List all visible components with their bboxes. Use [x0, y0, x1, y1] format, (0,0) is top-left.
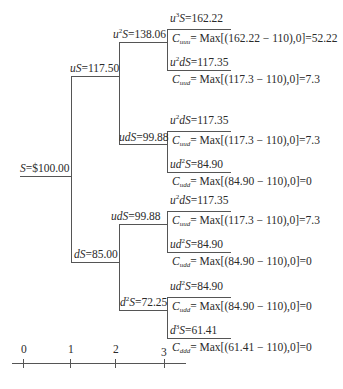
timeline-tick-0 [23, 359, 24, 368]
terminal-price-4: ud2S=84.90 [170, 158, 223, 171]
node-u-label: uS=117.50 [70, 62, 119, 75]
timeline-tick-2 [115, 359, 116, 368]
connector-t1 [71, 76, 72, 263]
terminal-line-4 [167, 172, 231, 173]
connector-t3-1 [167, 29, 168, 71]
node-d-label: dS=85.00 [74, 248, 118, 261]
terminal-price-1: u3S=162.22 [170, 12, 223, 25]
node-ud-top-label: udS=99.88 [119, 131, 169, 144]
branch-uu [119, 42, 167, 43]
terminal-payoff-8: Cddd= Max[(61.41 − 110),0]=0 [172, 341, 312, 354]
terminal-line-3 [167, 131, 231, 132]
timeline-tick-3 [164, 359, 165, 368]
terminal-line-7 [167, 297, 231, 298]
branch-ud-bottom [119, 224, 167, 225]
terminal-price-7: ud2S=84.90 [170, 280, 223, 293]
branch-dd [119, 310, 167, 311]
terminal-payoff-3: Cuud= Max[(117.3 − 110),0]=7.3 [172, 134, 320, 147]
terminal-line-2 [167, 70, 231, 71]
terminal-payoff-1: Cuuu= Max[(162.22 − 110),0]=52.22 [172, 32, 338, 45]
node-ud-bottom-label: udS=99.88 [111, 210, 161, 223]
timeline-label-1: 1 [68, 343, 74, 356]
timeline-axis [12, 363, 186, 364]
node-uu-label: u2S=138.06 [113, 28, 166, 41]
terminal-payoff-7: Cudd= Max[(84.90 − 110),0]=0 [172, 300, 312, 313]
timeline-tick-1 [70, 359, 71, 368]
terminal-payoff-6: Cudd= Max[(84.90 − 110),0]=0 [172, 255, 312, 268]
timeline-label-2: 2 [113, 343, 119, 356]
terminal-payoff-2: Cuud= Max[(117.3 − 110),0]=7.3 [172, 73, 320, 86]
timeline-label-0: 0 [21, 343, 27, 356]
node-s0-label: S=$100.00 [20, 162, 70, 175]
connector-t3-3 [167, 211, 168, 253]
terminal-price-3: u2dS=117.35 [170, 114, 228, 127]
terminal-price-6: ud2S=84.90 [170, 238, 223, 251]
connector-t2-upper [119, 42, 120, 145]
branch-u [71, 76, 119, 77]
terminal-payoff-5: Cuud= Max[(117.3 − 110),0]=7.3 [172, 214, 320, 227]
branch-s0 [20, 176, 71, 177]
branch-d [71, 262, 119, 263]
node-dd-label: d2S=72.25 [120, 296, 167, 309]
terminal-line-6 [167, 252, 231, 253]
terminal-line-5 [167, 211, 231, 212]
terminal-line-8 [167, 338, 231, 339]
terminal-payoff-4: Cudd= Max[(84.90 − 110),0]=0 [172, 175, 312, 188]
timeline-label-3: 3 [161, 346, 167, 359]
branch-ud-top [119, 144, 167, 145]
terminal-line-1 [167, 29, 231, 30]
terminal-price-8: d3S=61.41 [170, 324, 217, 337]
terminal-price-2: u2dS=117.35 [170, 56, 228, 69]
terminal-price-5: u2dS=117.35 [170, 194, 228, 207]
